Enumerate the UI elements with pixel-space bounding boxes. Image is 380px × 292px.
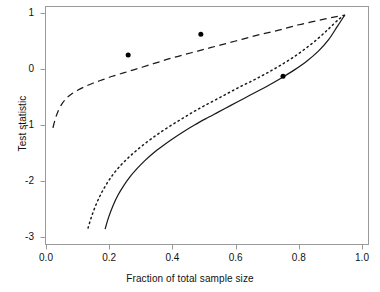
y-tick-label-0: 1 bbox=[8, 7, 34, 18]
scatter-point-2 bbox=[281, 74, 286, 79]
y-axis-ticks bbox=[41, 14, 46, 238]
x-tick-label-5: 1.0 bbox=[342, 252, 380, 263]
scatter-point-1 bbox=[198, 32, 203, 37]
x-axis-title: Fraction of total sample size bbox=[0, 273, 380, 284]
y-tick-label-2: -1 bbox=[8, 119, 34, 130]
y-tick-label-4: -3 bbox=[8, 231, 34, 242]
series-lower-boundary bbox=[105, 15, 345, 229]
x-axis-ticks bbox=[47, 245, 363, 250]
y-tick-label-3: -2 bbox=[8, 175, 34, 186]
x-tick-label-0: 0.0 bbox=[26, 252, 66, 263]
data-series-layer bbox=[53, 15, 345, 229]
plot-canvas bbox=[0, 0, 380, 292]
y-tick-label-1: 0 bbox=[8, 63, 34, 74]
scatter-points-layer bbox=[126, 32, 286, 79]
x-tick-label-3: 0.6 bbox=[216, 252, 256, 263]
chart-figure: Fraction of total sample size Test stati… bbox=[0, 0, 380, 292]
scatter-point-0 bbox=[126, 53, 131, 58]
x-tick-label-4: 0.8 bbox=[279, 252, 319, 263]
x-tick-label-2: 0.4 bbox=[152, 252, 192, 263]
series-middle-boundary bbox=[88, 15, 345, 228]
series-upper-boundary bbox=[53, 15, 345, 128]
x-tick-label-1: 0.2 bbox=[89, 252, 129, 263]
